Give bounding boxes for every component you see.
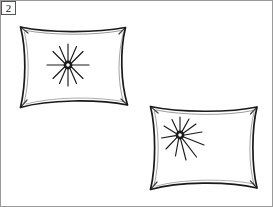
pillow-line-drawing (0, 0, 273, 207)
panel-label: 2 (1, 1, 16, 15)
pillow-lower-right-tuft-center (177, 132, 183, 138)
pillow-upper-left-tuft-center (65, 62, 71, 68)
figure-canvas: 2 (0, 0, 273, 207)
